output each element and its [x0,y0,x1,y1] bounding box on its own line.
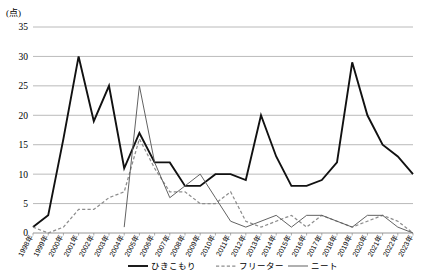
x-axis-tick-label: 2023年 [396,234,415,259]
legend-label-0: ひきこもり [151,261,196,271]
y-axis-tick-label: 25 [19,81,29,91]
series-line-0 [33,56,413,227]
chart-legend: ひきこもりフリーターニート [128,261,338,271]
y-axis-unit-label: (点) [6,8,21,18]
legend-label-1: フリーター [239,261,284,271]
y-axis-tick-label: 15 [19,140,29,150]
line-chart-figure: 05101520253035 1998年1999年2000年2001年2002年… [0,0,422,276]
legend-label-2: ニート [311,261,338,271]
y-axis-tick-label: 35 [19,22,29,32]
y-axis-tick-label: 30 [19,52,29,62]
x-axis-tick-labels: 1998年1999年2000年2001年2002年2003年2004年2005年… [16,233,415,258]
y-axis-tick-label: 10 [19,170,29,180]
y-axis-tick-label: 20 [19,111,29,121]
series-line-2 [124,86,413,233]
y-axis-tick-labels: 05101520253035 [19,22,29,238]
series-line-1 [33,139,413,233]
chart-canvas: 05101520253035 1998年1999年2000年2001年2002年… [0,0,422,276]
y-axis-tick-label: 5 [23,199,28,209]
gridlines-group [33,27,413,233]
